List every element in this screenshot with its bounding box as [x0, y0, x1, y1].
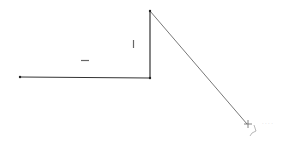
sketch-points[interactable]	[19, 10, 151, 79]
segment-diagonal[interactable]	[150, 11, 247, 124]
constraint-markers	[81, 40, 134, 61]
dimension-tooltip: · · · ·	[262, 120, 273, 126]
sketch-polyline[interactable]	[20, 11, 247, 124]
segment-horizontal[interactable]	[20, 77, 150, 78]
point-start[interactable]	[19, 76, 21, 78]
sketch-canvas[interactable]	[0, 0, 308, 152]
cursor-arrow-icon	[250, 125, 256, 136]
point-corner[interactable]	[149, 77, 151, 79]
point-top[interactable]	[149, 10, 151, 12]
